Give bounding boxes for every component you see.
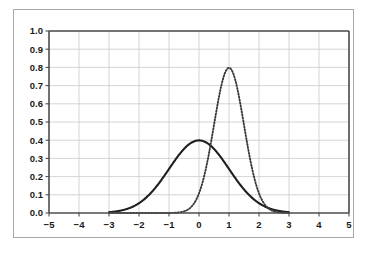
plot-area: −5−4−3−2−1012345 0.00.10.20.30.40.50.60.… — [14, 10, 355, 239]
y-tick-label: 0.2 — [30, 171, 43, 182]
y-axis-tick-labels: 0.00.10.20.30.40.50.60.70.80.91.0 — [30, 25, 44, 218]
gaussian-density-chart: −5−4−3−2−1012345 0.00.10.20.30.40.50.60.… — [14, 10, 355, 239]
x-tick-label: 2 — [256, 219, 261, 230]
x-tick-label: 5 — [346, 219, 352, 230]
y-tick-label: 0.6 — [30, 98, 43, 109]
x-tick-label: −3 — [104, 219, 115, 230]
axis-tick-marks — [46, 31, 350, 217]
figure-frame: −5−4−3−2−1012345 0.00.10.20.30.40.50.60.… — [13, 9, 354, 238]
y-tick-label: 0.9 — [30, 44, 43, 55]
y-tick-label: 0.4 — [30, 135, 44, 146]
y-tick-label: 0.1 — [30, 189, 44, 200]
x-tick-label: −1 — [164, 219, 176, 230]
x-tick-label: −2 — [134, 219, 145, 230]
x-tick-label: 1 — [226, 219, 232, 230]
y-tick-label: 0.3 — [30, 153, 43, 164]
x-tick-label: 3 — [286, 219, 291, 230]
y-tick-label: 1.0 — [30, 25, 43, 36]
x-tick-label: 0 — [196, 219, 201, 230]
x-tick-label: −4 — [74, 219, 86, 230]
y-tick-label: 0.0 — [30, 207, 43, 218]
grid-lines — [49, 31, 349, 213]
x-tick-label: −5 — [44, 219, 56, 230]
y-tick-label: 0.5 — [30, 116, 44, 127]
x-tick-label: 4 — [316, 219, 322, 230]
y-tick-label: 0.8 — [30, 62, 43, 73]
y-tick-label: 0.7 — [30, 80, 43, 91]
x-axis-tick-labels: −5−4−3−2−1012345 — [44, 219, 353, 230]
